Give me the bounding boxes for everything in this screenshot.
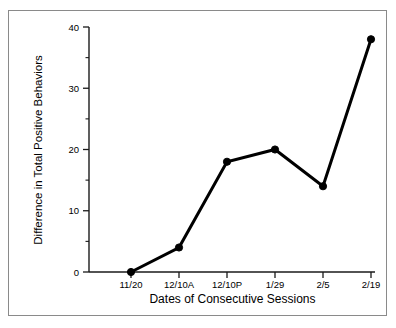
x-tick-label-3: 1/29 [266,279,285,290]
data-point-12/10A [175,244,182,251]
line-chart-plot: 0 10 20 30 40 11/20 12/10A 12/10P 1/29 2… [0,0,396,328]
data-point-1/29 [271,146,278,153]
y-tick-label-10: 10 [68,205,79,216]
y-tick-label-30: 30 [68,83,79,94]
data-point-2/5 [319,183,326,190]
data-point-11/20 [127,268,134,275]
x-tick-label-2: 12/10P [212,279,242,290]
data-series-line [131,39,371,272]
y-tick-label-20: 20 [68,144,79,155]
x-tick-label-5: 2/19 [362,279,381,290]
y-tick-label-40: 40 [68,22,79,33]
chart-figure: Difference in Total Positive Behaviors D… [0,0,396,328]
x-tick-label-4: 2/5 [316,279,329,290]
x-tick-label-0: 11/20 [119,279,142,290]
x-tick-label-1: 12/10A [164,279,195,290]
y-tick-label-0: 0 [74,267,79,278]
data-point-2/19 [367,36,374,43]
data-point-12/10P [223,158,230,165]
